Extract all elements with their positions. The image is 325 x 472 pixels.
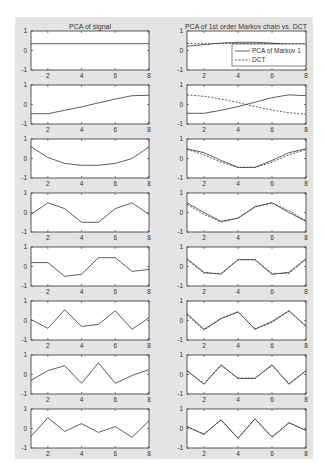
y-tick-label: 1 [179,243,183,250]
y-tick-label: 1 [179,297,183,304]
x-tick-label: 2 [46,72,50,79]
y-tick-label: 0 [23,263,27,270]
x-tick-label: 8 [147,450,151,457]
x-tick-label: 8 [304,72,308,79]
y-tick-label: -1 [177,120,183,127]
x-tick-label: 8 [304,450,308,457]
x-tick-label: 4 [236,342,240,349]
x-tick-label: 8 [147,396,151,403]
y-tick-label: -1 [177,336,183,343]
x-tick-label: 8 [304,234,308,241]
y-tick-label: 0 [179,47,183,54]
x-tick-label: 4 [80,288,84,295]
subplot-left-8: 2468-101 [21,405,151,457]
x-tick-label: 8 [304,180,308,187]
y-tick-label: 1 [23,351,27,358]
x-tick-label: 6 [270,288,274,295]
x-tick-label: 6 [113,126,117,133]
y-tick-label: 1 [179,189,183,196]
x-tick-label: 4 [80,126,84,133]
x-tick-label: 6 [270,396,274,403]
x-tick-label: 2 [202,126,206,133]
y-tick-label: 0 [179,155,183,162]
y-tick-label: 0 [23,425,27,432]
x-tick-label: 6 [270,342,274,349]
y-tick-label: -1 [177,66,183,73]
x-tick-label: 4 [80,234,84,241]
x-tick-label: 4 [80,342,84,349]
x-tick-label: 4 [236,396,240,403]
x-tick-label: 6 [113,342,117,349]
x-tick-label: 4 [80,396,84,403]
y-tick-label: 1 [179,405,183,412]
x-tick-label: 8 [304,126,308,133]
y-tick-label: -1 [21,174,27,181]
y-tick-label: 0 [23,317,27,324]
x-tick-label: 2 [202,288,206,295]
x-tick-label: 8 [147,126,151,133]
y-tick-label: -1 [21,66,27,73]
y-tick-label: -1 [21,282,27,289]
y-tick-label: -1 [177,282,183,289]
x-tick-label: 6 [270,126,274,133]
y-tick-label: 0 [179,371,183,378]
x-tick-label: 2 [202,180,206,187]
subplot-left-1: 2468-101 [21,27,151,79]
x-tick-label: 6 [113,72,117,79]
subplot-left-2: 2468-101 [21,81,151,133]
subplot-right-6: 2468-101 [177,297,308,349]
x-tick-label: 4 [236,288,240,295]
x-tick-label: 2 [46,180,50,187]
y-tick-label: 0 [179,425,183,432]
y-tick-label: -1 [177,228,183,235]
subplot-right-3: 2468-101 [177,135,308,187]
y-tick-label: 1 [23,81,27,88]
x-tick-label: 6 [113,396,117,403]
x-tick-label: 2 [202,234,206,241]
x-tick-label: 6 [270,234,274,241]
x-tick-label: 2 [202,342,206,349]
y-tick-label: -1 [177,390,183,397]
subplot-right-4: 2468-101 [177,189,308,241]
x-tick-label: 4 [236,234,240,241]
x-tick-label: 6 [113,180,117,187]
x-tick-label: 2 [202,72,206,79]
subplot-right-7: 2468-101 [177,351,308,403]
subplot-right-8: 2468-101 [177,405,308,457]
y-tick-label: 1 [23,135,27,142]
y-tick-label: 0 [23,155,27,162]
y-tick-label: 1 [23,189,27,196]
x-tick-label: 4 [236,72,240,79]
y-tick-label: 0 [179,101,183,108]
y-tick-label: 1 [179,351,183,358]
y-tick-label: -1 [21,390,27,397]
y-tick-label: 1 [179,135,183,142]
x-tick-label: 6 [113,234,117,241]
figure-background: PCA of signal PCA of 1st order Markov ch… [15,17,313,459]
y-tick-label: -1 [21,120,27,127]
x-tick-label: 6 [270,72,274,79]
x-tick-label: 8 [147,288,151,295]
x-tick-label: 6 [270,450,274,457]
y-tick-label: 1 [23,27,27,34]
y-tick-label: 0 [23,101,27,108]
x-tick-label: 8 [304,288,308,295]
x-tick-label: 8 [147,342,151,349]
subplot-left-6: 2468-101 [21,297,151,349]
y-tick-label: 0 [23,209,27,216]
x-tick-label: 4 [80,72,84,79]
y-tick-label: -1 [21,444,27,451]
x-tick-label: 2 [202,450,206,457]
y-tick-label: 0 [179,209,183,216]
subplot-grid: 2468-1012468-1012468-1012468-1012468-101… [15,17,313,459]
x-tick-label: 2 [46,234,50,241]
y-tick-label: 0 [179,317,183,324]
subplot-left-5: 2468-101 [21,243,151,295]
legend-label: DCT [252,56,265,63]
x-tick-label: 8 [147,234,151,241]
y-tick-label: -1 [177,174,183,181]
x-tick-label: 6 [113,288,117,295]
y-tick-label: -1 [21,228,27,235]
x-tick-label: 2 [46,396,50,403]
subplot-left-7: 2468-101 [21,351,151,403]
